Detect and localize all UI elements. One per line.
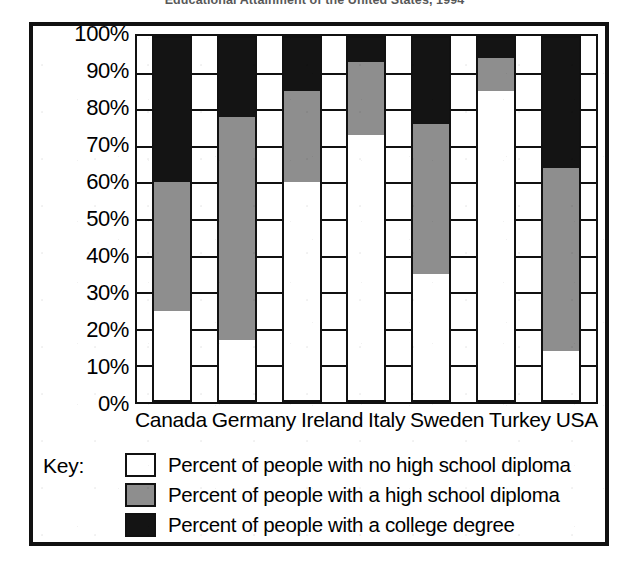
bar-segment-white xyxy=(346,135,386,402)
bar-germany xyxy=(217,36,257,402)
y-tick-label: 70% xyxy=(86,134,129,156)
legend-item-white: Percent of people with no high school di… xyxy=(125,450,599,480)
y-tick-label: 80% xyxy=(86,97,129,119)
bar-segment-black xyxy=(282,36,322,91)
bar-segment-black xyxy=(541,36,581,168)
plot-area xyxy=(135,34,598,404)
bar-segment-black xyxy=(346,36,386,62)
legend-swatch-white xyxy=(125,453,156,477)
bar-segment-white xyxy=(217,340,257,402)
bar-segment-black xyxy=(411,36,451,124)
legend-label: Percent of people with a college degree xyxy=(168,513,514,537)
bar-segment-gray xyxy=(411,124,451,274)
bar-italy xyxy=(346,36,386,402)
bar-segment-black xyxy=(476,36,516,58)
legend-item-black: Percent of people with a college degree xyxy=(125,510,599,540)
bar-segment-gray xyxy=(541,168,581,351)
y-tick-label: 60% xyxy=(86,171,129,193)
y-tick-label: 100% xyxy=(74,23,129,45)
y-tick-label: 0% xyxy=(98,393,129,415)
category-label-sweden: Sweden xyxy=(410,408,484,432)
y-tick-label: 10% xyxy=(86,356,129,378)
figure-title: Educational Attainment of the United Sta… xyxy=(0,0,629,6)
legend-item-gray: Percent of people with a high school dip… xyxy=(125,480,599,510)
bar-segment-gray xyxy=(217,117,257,340)
bar-canada xyxy=(152,36,192,402)
y-tick-label: 30% xyxy=(86,282,129,304)
chart-frame: 0%10%20%30%40%50%60%70%80%90%100% Canada… xyxy=(29,22,609,546)
x-axis-category-labels: CanadaGermanyIrelandItalySwedenTurkeyUSA xyxy=(135,408,598,432)
legend: Key: Percent of people with no high scho… xyxy=(43,450,599,540)
category-label-turkey: Turkey xyxy=(489,408,551,432)
category-label-canada: Canada xyxy=(135,408,207,432)
legend-title: Key: xyxy=(43,450,125,478)
y-tick-label: 40% xyxy=(86,245,129,267)
bar-segment-white xyxy=(541,351,581,402)
bar-segment-white xyxy=(282,182,322,402)
category-label-germany: Germany xyxy=(212,408,296,432)
bar-segment-black xyxy=(152,36,192,182)
y-tick-label: 20% xyxy=(86,319,129,341)
y-tick-label: 50% xyxy=(86,208,129,230)
bar-segment-gray xyxy=(282,91,322,183)
y-tick-label: 90% xyxy=(86,60,129,82)
bar-ireland xyxy=(282,36,322,402)
bar-turkey xyxy=(476,36,516,402)
legend-items: Percent of people with no high school di… xyxy=(125,450,599,540)
category-label-italy: Italy xyxy=(368,408,405,432)
bar-segment-gray xyxy=(476,58,516,91)
legend-swatch-black xyxy=(125,513,156,537)
y-axis: 0%10%20%30%40%50%60%70%80%90%100% xyxy=(71,34,133,404)
stacked-bars xyxy=(137,36,596,402)
legend-swatch-gray xyxy=(125,483,156,507)
bar-segment-white xyxy=(411,274,451,402)
bar-segment-white xyxy=(152,311,192,403)
plot-region: 0%10%20%30%40%50%60%70%80%90%100% xyxy=(71,34,598,404)
bar-segment-black xyxy=(217,36,257,117)
bar-segment-gray xyxy=(346,62,386,135)
bar-usa xyxy=(541,36,581,402)
legend-label: Percent of people with no high school di… xyxy=(168,453,571,477)
category-label-usa: USA xyxy=(556,408,598,432)
legend-label: Percent of people with a high school dip… xyxy=(168,483,559,507)
bar-segment-white xyxy=(476,91,516,402)
bar-sweden xyxy=(411,36,451,402)
category-label-ireland: Ireland xyxy=(301,408,363,432)
bar-segment-gray xyxy=(152,182,192,310)
